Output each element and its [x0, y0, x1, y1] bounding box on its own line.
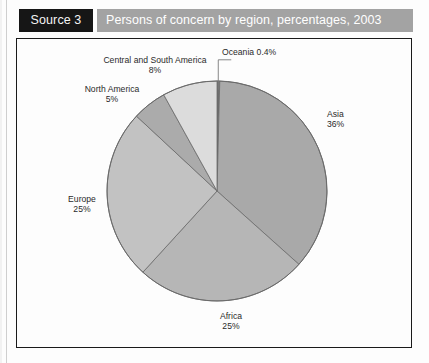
slice-label-central-and-south-america: Central and South America 8%	[89, 55, 221, 76]
slice-label-north-america: North America 5%	[71, 84, 153, 105]
slice-label-percent: 5%	[71, 94, 153, 104]
slice-label-percent: 8%	[89, 65, 221, 75]
slice-label-name: Africa	[193, 311, 269, 321]
slice-label-africa: Africa 25%	[193, 311, 269, 332]
slice-label-europe: Europe 25%	[51, 194, 113, 215]
slice-label-name: Oceania	[222, 47, 254, 57]
source-badge: Source 3	[19, 9, 93, 32]
pie-slice-group	[107, 81, 327, 301]
page-edge-shadow	[0, 0, 2, 363]
slice-label-asia: Asia 36%	[327, 109, 387, 130]
page-canvas: Source 3 Persons of concern by region, p…	[0, 0, 429, 363]
figure-title: Persons of concern by region, percentage…	[97, 9, 413, 32]
figure-header: Source 3 Persons of concern by region, p…	[19, 9, 413, 32]
pie-chart: Central and South America 8% North Ameri…	[17, 39, 413, 349]
slice-label-oceania: Oceania 0.4%	[222, 47, 276, 57]
chart-frame: Central and South America 8% North Ameri…	[16, 38, 412, 348]
slice-label-percent: 0.4%	[257, 47, 277, 57]
slice-label-percent: 25%	[51, 204, 113, 214]
slice-label-name: North America	[71, 84, 153, 94]
slice-label-percent: 36%	[327, 119, 387, 129]
slice-label-name: Central and South America	[89, 55, 221, 65]
slice-label-name: Europe	[51, 194, 113, 204]
page-edge-line	[6, 0, 7, 363]
slice-label-percent: 25%	[193, 321, 269, 331]
slice-label-name: Asia	[327, 109, 387, 119]
